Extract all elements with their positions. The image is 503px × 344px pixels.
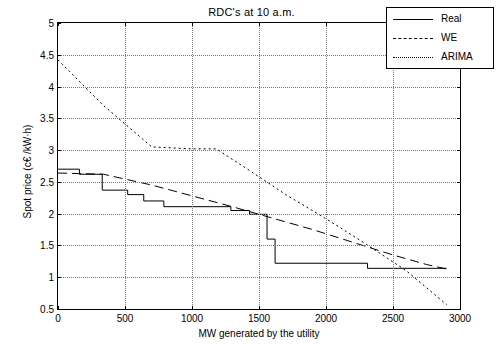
y-tick — [457, 118, 461, 119]
y-tick — [57, 87, 61, 88]
figure: RDC's at 10 a.m. 0.511.522.533.544.55 05… — [0, 0, 503, 344]
x-tick — [326, 306, 327, 310]
x-tick — [125, 306, 126, 310]
x-tick — [326, 22, 327, 26]
y-tick — [57, 150, 61, 151]
x-tick-label: 0 — [55, 313, 61, 324]
legend-label-arima: ARIMA — [441, 51, 473, 62]
x-tick-label: 1500 — [248, 313, 270, 324]
y-tick — [57, 118, 61, 119]
y-tick — [457, 150, 461, 151]
legend-label-real: Real — [441, 13, 462, 24]
legend-sample-real — [393, 19, 433, 20]
y-tick — [57, 55, 61, 56]
gridline-horizontal — [58, 277, 460, 278]
gridline-vertical — [125, 23, 126, 309]
y-tick — [457, 87, 461, 88]
gridline-horizontal — [58, 214, 460, 215]
y-tick — [457, 277, 461, 278]
x-tick-label: 2500 — [382, 313, 404, 324]
legend-sample-arima — [393, 57, 433, 58]
gridline-horizontal — [58, 118, 460, 119]
y-tick — [57, 245, 61, 246]
x-tick — [125, 22, 126, 26]
x-tick-label: 500 — [117, 313, 134, 324]
y-tick — [457, 182, 461, 183]
y-tick — [57, 182, 61, 183]
gridline-vertical — [259, 23, 260, 309]
y-tick — [57, 214, 61, 215]
legend-item-real: Real — [387, 10, 493, 28]
y-axis-title: Spot price (c€ /kW·h) — [22, 57, 33, 287]
gridline-horizontal — [58, 87, 460, 88]
gridline-vertical — [326, 23, 327, 309]
y-tick — [457, 214, 461, 215]
gridline-horizontal — [58, 182, 460, 183]
gridline-horizontal — [58, 245, 460, 246]
y-tick-label: 5 — [24, 18, 54, 29]
gridline-horizontal — [58, 150, 460, 151]
x-tick-label: 2000 — [315, 313, 337, 324]
y-tick-label: 0.5 — [24, 304, 54, 315]
x-tick-label: 1000 — [181, 313, 203, 324]
x-tick-label: 3000 — [449, 313, 471, 324]
y-tick — [57, 277, 61, 278]
legend-item-we: WE — [387, 29, 493, 47]
series-we — [58, 173, 447, 269]
y-tick — [457, 309, 461, 310]
gridline-vertical — [192, 23, 193, 309]
x-axis-tick-labels: 050010001500200025003000 — [57, 313, 461, 327]
x-tick — [192, 306, 193, 310]
x-tick — [259, 306, 260, 310]
y-tick — [457, 245, 461, 246]
y-tick — [57, 23, 61, 24]
x-tick — [259, 22, 260, 26]
x-tick — [393, 306, 394, 310]
y-tick — [57, 309, 61, 310]
x-tick — [192, 22, 193, 26]
legend-label-we: WE — [441, 32, 457, 43]
legend: Real WE ARIMA — [386, 7, 494, 69]
legend-sample-we — [393, 38, 433, 39]
x-axis-title: MW generated by the utility — [57, 328, 461, 339]
legend-item-arima: ARIMA — [387, 48, 493, 66]
